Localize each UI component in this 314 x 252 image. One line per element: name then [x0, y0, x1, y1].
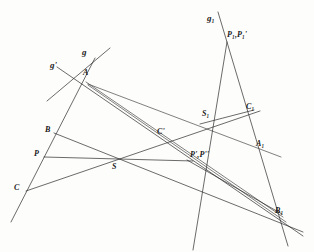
line-g	[47, 48, 110, 101]
point-label-S-one: S₁	[202, 110, 209, 118]
point-label-C: C	[14, 184, 19, 192]
point-label-P-primes: P',P''	[190, 151, 209, 159]
line-label-g-prime: g'	[50, 61, 57, 70]
point-label-S: S	[112, 163, 117, 171]
point-label-B: B	[45, 126, 50, 134]
point-label-C-one: C₁	[246, 103, 254, 111]
line-P1-S1-extended	[193, 42, 227, 250]
line-A-B-P-C	[11, 58, 95, 222]
point-label-A-one: A₁	[256, 140, 264, 148]
point-label-P: P	[34, 150, 39, 158]
geometry-diagram: g g' g₁ A B C P S C' P',P'' P₁,P₁' S₁ C₁…	[0, 0, 314, 252]
point-label-P-one: P₁,P₁'	[227, 31, 247, 39]
line-label-g: g	[82, 48, 87, 57]
point-label-C-prime: C'	[157, 128, 165, 136]
line-A-to-B1	[88, 85, 286, 222]
line-A-to-A1	[88, 84, 281, 157]
line-label-g-one: g₁	[207, 14, 215, 23]
line-Pprime-to-B1	[187, 160, 282, 214]
point-label-A: A	[83, 69, 88, 77]
point-label-B-one: B₁	[275, 207, 283, 215]
